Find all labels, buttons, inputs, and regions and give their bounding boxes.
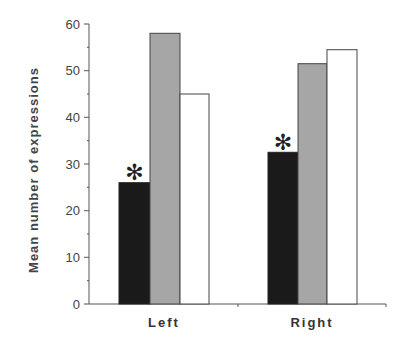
x-category-right: Right bbox=[290, 315, 333, 330]
y-tick-labels: 0 10 20 30 40 50 60 bbox=[66, 17, 80, 312]
x-category-left: Left bbox=[148, 315, 180, 330]
bar-left-black bbox=[119, 183, 150, 304]
bar-right-gray bbox=[298, 64, 327, 304]
y-tick-label: 0 bbox=[73, 297, 80, 312]
bar-group-left: ✻ bbox=[119, 33, 209, 304]
y-tick-label: 60 bbox=[66, 17, 80, 32]
bar-right-black bbox=[268, 152, 298, 304]
bar-chart: Mean number of expressions 0 10 20 30 40… bbox=[0, 0, 403, 346]
y-axis-title: Mean number of expressions bbox=[26, 67, 41, 273]
bar-group-right: ✻ bbox=[268, 50, 357, 304]
y-tick-label: 50 bbox=[66, 63, 80, 78]
y-ticks bbox=[84, 24, 89, 304]
significance-star-right: ✻ bbox=[274, 130, 292, 155]
y-tick-label: 10 bbox=[66, 250, 80, 265]
bar-left-gray bbox=[150, 33, 180, 304]
y-tick-label: 30 bbox=[66, 157, 80, 172]
y-tick-label: 40 bbox=[66, 110, 80, 125]
significance-star-left: ✻ bbox=[125, 160, 143, 185]
y-tick-label: 20 bbox=[66, 203, 80, 218]
bar-right-white bbox=[327, 50, 357, 304]
bar-left-white bbox=[180, 94, 209, 304]
